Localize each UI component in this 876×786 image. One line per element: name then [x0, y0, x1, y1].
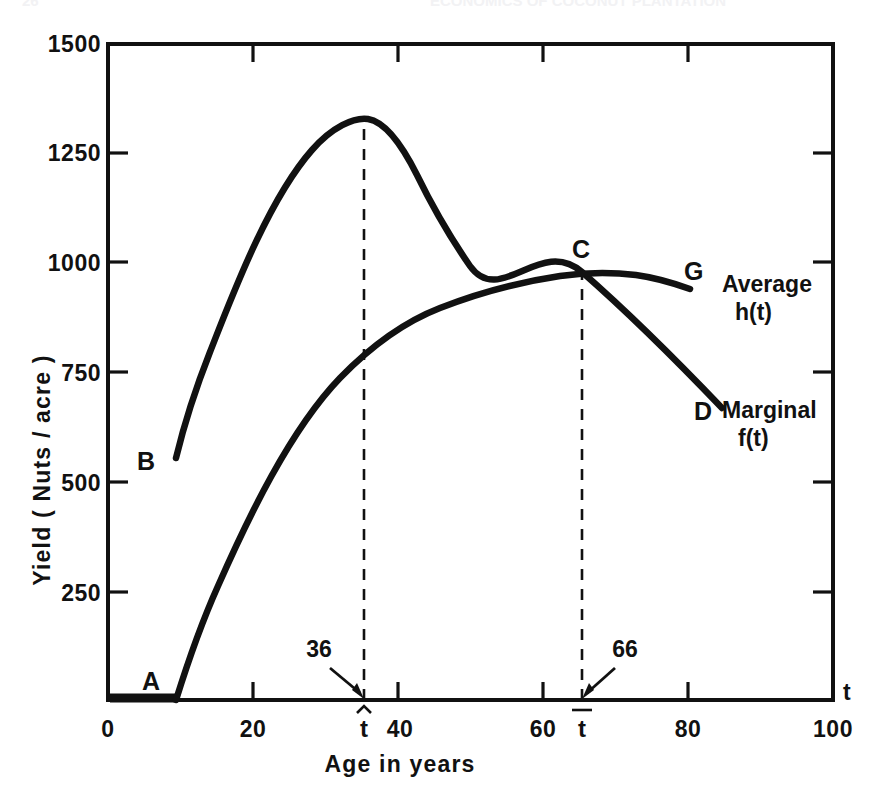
figure-root: 26 ECONOMICS OF COCONUT PLANTATION	[0, 0, 876, 786]
annotation-36: 36	[306, 636, 364, 699]
legend-marginal: Marginal f(t)	[722, 397, 817, 451]
x-label-80: 80	[675, 716, 702, 742]
y-label-500: 500	[61, 470, 101, 496]
y-label-750: 750	[61, 360, 101, 386]
plot-frame	[108, 44, 833, 700]
x-axis-variable-label: t	[843, 679, 851, 705]
y-label-1250: 1250	[48, 140, 101, 166]
point-label-G: G	[684, 257, 703, 285]
x-label-100: 100	[813, 716, 853, 742]
t-bar-marker: t	[572, 710, 592, 742]
x-axis-title: Age in years	[324, 751, 475, 777]
x-label-60: 60	[530, 716, 557, 742]
point-label-D: D	[694, 397, 712, 425]
t-hat-accent-icon	[357, 706, 371, 713]
annotation-66-label: 66	[612, 636, 638, 662]
point-label-B: B	[137, 447, 155, 475]
legend-average: Average h(t)	[722, 271, 812, 325]
x-axis-ticks-top	[253, 44, 688, 62]
marginal-curve	[176, 119, 722, 458]
y-label-1500: 1500	[48, 31, 101, 57]
legend-marginal-line2: f(t)	[738, 425, 769, 451]
y-axis-title: Yield ( Nuts / acre )	[29, 354, 55, 585]
x-label-20: 20	[240, 716, 267, 742]
y-tick-labels: 1500 1250 1000 750 500 250	[48, 31, 101, 606]
y-label-1000: 1000	[48, 250, 101, 276]
point-label-A: A	[142, 667, 160, 695]
annotation-36-label: 36	[306, 636, 332, 662]
legend-marginal-line1: Marginal	[722, 397, 817, 423]
x-axis-ticks-bottom	[253, 682, 688, 700]
t-hat-label: t	[360, 715, 368, 742]
yield-curves-chart: B A C D G Average h(t) Marginal f(t) 150…	[0, 0, 876, 786]
legend-average-line1: Average	[722, 271, 812, 297]
y-axis-ticks-left	[108, 153, 128, 592]
annotation-66: 66	[582, 636, 638, 699]
annotation-36-arrow-head-icon	[352, 683, 364, 699]
legend-average-line2: h(t)	[735, 299, 772, 325]
t-hat-marker: t	[357, 706, 371, 742]
axis-box	[108, 44, 833, 700]
annotation-66-arrow-head-icon	[582, 683, 594, 699]
x-label-40: 40	[387, 716, 414, 742]
point-label-C: C	[572, 235, 590, 263]
y-axis-ticks-right	[813, 153, 833, 592]
x-label-0: 0	[101, 716, 114, 742]
y-label-250: 250	[61, 580, 101, 606]
t-bar-label: t	[578, 715, 586, 742]
x-tick-labels: 0 20 40 60 80 100	[101, 716, 853, 742]
